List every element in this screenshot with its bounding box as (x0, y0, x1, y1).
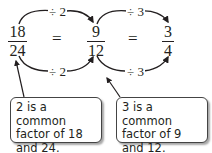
divide-by-3-top: ÷ 3 (126, 5, 145, 18)
divide-by-2-bottom: ÷ 2 (48, 65, 67, 78)
fraction-18-24: 18 24 (8, 24, 27, 58)
numerator: 18 (8, 24, 27, 39)
equals-sign: = (128, 30, 138, 47)
numerator: 9 (87, 24, 105, 39)
callout-pointer-1 (16, 61, 24, 97)
denominator: 4 (162, 43, 174, 58)
numerator: 3 (162, 24, 174, 39)
callout-common-factor-2: 2 is a common factor of 18 and 24. (10, 97, 102, 143)
fraction-3-4: 3 4 (162, 24, 174, 58)
callout-common-factor-3: 3 is a common factor of 9 and 12. (116, 97, 208, 143)
denominator: 12 (87, 43, 105, 58)
divide-by-3-bottom: ÷ 3 (126, 65, 145, 78)
equals-sign: = (52, 30, 62, 47)
fraction-9-12: 9 12 (87, 24, 105, 58)
callout-pointer-2 (107, 78, 120, 97)
denominator: 24 (8, 43, 27, 58)
divide-by-2-top: ÷ 2 (48, 5, 67, 18)
